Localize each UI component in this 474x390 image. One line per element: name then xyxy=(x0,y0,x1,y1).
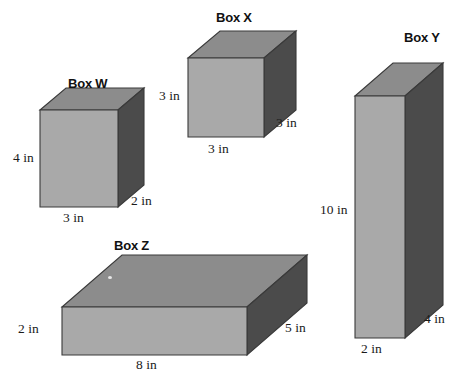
box-z-front-face xyxy=(62,307,247,355)
box-x-height-label: 3 in xyxy=(159,88,180,104)
box-x-width-label: 3 in xyxy=(208,141,229,157)
box-z-height-label: 2 in xyxy=(18,321,39,337)
box-z-width-label: 8 in xyxy=(136,357,157,373)
scan-speck xyxy=(108,276,112,279)
box-z-depth-label: 5 in xyxy=(285,320,306,336)
box-y-front-face xyxy=(355,96,405,338)
box-z-title: Box Z xyxy=(114,238,149,253)
box-x-title: Box X xyxy=(216,10,252,25)
box-w-shape xyxy=(40,88,144,207)
box-y-depth-label: 4 in xyxy=(424,311,445,327)
box-z-shape xyxy=(62,255,307,355)
box-y-title: Box Y xyxy=(404,30,440,45)
box-w-depth-label: 2 in xyxy=(131,193,152,209)
box-shapes-layer: .f-front { fill: #a9a9a9; stroke: #3a3a3… xyxy=(0,0,474,390)
box-y-side-face xyxy=(405,63,443,338)
box-w-height-label: 4 in xyxy=(13,150,34,166)
box-w-width-label: 3 in xyxy=(63,210,84,226)
box-x-depth-label: 3 in xyxy=(276,115,297,131)
box-y-height-label: 10 in xyxy=(320,202,347,218)
box-y-shape xyxy=(355,63,443,338)
diagram-canvas: .f-front { fill: #a9a9a9; stroke: #3a3a3… xyxy=(0,0,474,390)
box-w-title: Box W xyxy=(68,76,107,91)
box-w-front-face xyxy=(40,110,118,207)
box-x-front-face xyxy=(188,58,264,137)
box-y-width-label: 2 in xyxy=(361,341,382,357)
